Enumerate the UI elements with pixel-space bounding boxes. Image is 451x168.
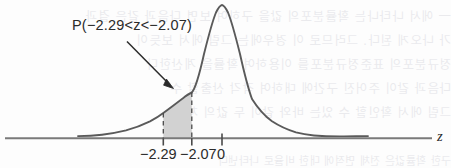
tick-label-upper: −2.07 bbox=[180, 146, 217, 162]
normal-distribution-figure: 一 에서 나타나는 확률분포의 값을 구하여 보면 다음과 같은 결과 가 나오… bbox=[0, 0, 451, 168]
distribution-plot bbox=[0, 0, 451, 168]
probability-annotation-label: P(−2.29<z<−2.07) bbox=[72, 17, 192, 33]
tick-label-zero: 0 bbox=[217, 146, 225, 162]
annotation-arrow bbox=[127, 42, 174, 89]
tick-label-lower: −2.29 bbox=[140, 146, 177, 162]
axis-label-z: z bbox=[437, 128, 443, 145]
shaded-probability-area bbox=[163, 93, 192, 139]
